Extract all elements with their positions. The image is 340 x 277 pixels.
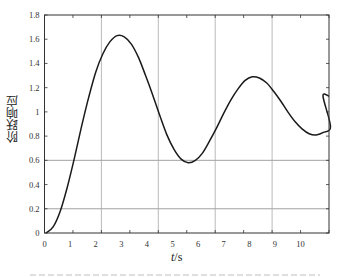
x-tick-label: 2 bbox=[94, 239, 98, 249]
response-curve bbox=[46, 35, 331, 233]
y-tick-label: 1.8 bbox=[29, 10, 40, 20]
y-axis-label: 阶跃响应 bbox=[6, 95, 22, 143]
x-tick-label: 0 bbox=[42, 239, 46, 249]
y-tick-label: 1.4 bbox=[29, 58, 40, 68]
y-tick-label: 1 bbox=[35, 107, 39, 117]
x-tick-label: 10 bbox=[296, 239, 305, 249]
y-axis-ticks: 00.20.40.60.811.21.41.61.8 bbox=[29, 10, 329, 238]
y-tick-label: 0.4 bbox=[29, 180, 40, 190]
y-tick-label: 0.8 bbox=[29, 131, 40, 141]
x-tick-label: 8 bbox=[247, 239, 251, 249]
x-axis-label: t/s bbox=[171, 250, 182, 265]
step-response-line bbox=[46, 35, 331, 233]
x-tick-label: 1 bbox=[68, 239, 72, 249]
y-tick-label: 0 bbox=[35, 228, 39, 238]
y-tick-label: 1.6 bbox=[29, 34, 40, 44]
x-tick-label: 6 bbox=[196, 239, 200, 249]
figure-caption-cutoff bbox=[30, 272, 320, 277]
grid-lines bbox=[45, 15, 330, 233]
x-tick-label: 7 bbox=[222, 239, 226, 249]
x-tick-label: 9 bbox=[273, 239, 277, 249]
y-tick-label: 0.2 bbox=[29, 204, 40, 214]
axes-frame bbox=[45, 15, 330, 233]
x-tick-label: 4 bbox=[145, 239, 150, 249]
x-axis-ticks: 012345678910 bbox=[42, 15, 329, 249]
y-tick-label: 1.2 bbox=[29, 83, 40, 93]
x-tick-label: 5 bbox=[170, 239, 174, 249]
x-tick-label: 3 bbox=[119, 239, 123, 249]
y-tick-label: 0.6 bbox=[29, 155, 40, 165]
step-response-chart: 00.20.40.60.811.21.41.61.8 012345678910 bbox=[0, 0, 340, 277]
